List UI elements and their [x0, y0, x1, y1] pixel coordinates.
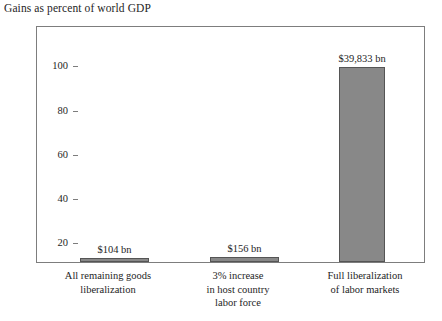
x-axis-label-line: of labor markets — [285, 283, 442, 297]
chart-title: Gains as percent of world GDP — [4, 1, 151, 15]
bar-group-1[interactable]: $104 bn — [80, 257, 149, 262]
bar-group-2[interactable]: $156 bn — [210, 256, 279, 262]
bar-rect[interactable] — [80, 258, 149, 262]
bar-rect[interactable] — [210, 257, 279, 262]
bar-value-label: $39,833 bn — [338, 52, 385, 65]
bar-value-label: $156 bn — [227, 242, 261, 255]
x-axis-label-line: labor force — [158, 296, 318, 310]
y-tick-mark — [73, 111, 78, 112]
y-tick-mark — [73, 155, 78, 156]
bar-group-3[interactable]: $39,833 bn — [339, 66, 385, 262]
x-axis-label-line: Full liberalization — [285, 269, 442, 283]
bar-value-label: $104 bn — [97, 243, 131, 256]
y-tick-label: 40 — [37, 192, 68, 205]
y-tick-label: 80 — [37, 104, 68, 117]
y-tick-mark — [73, 66, 78, 67]
y-tick-mark — [73, 199, 78, 200]
y-tick-label: 100 — [37, 59, 68, 72]
x-axis-label-3: Full liberalization of labor markets — [285, 269, 442, 296]
bar-rect[interactable] — [339, 67, 385, 262]
y-tick-label: 60 — [37, 148, 68, 161]
plot-area: 100 80 60 40 20 $104 bn $156 bn $39,833 … — [36, 26, 425, 263]
y-tick-mark — [73, 243, 78, 244]
y-tick-label: 20 — [37, 236, 68, 249]
